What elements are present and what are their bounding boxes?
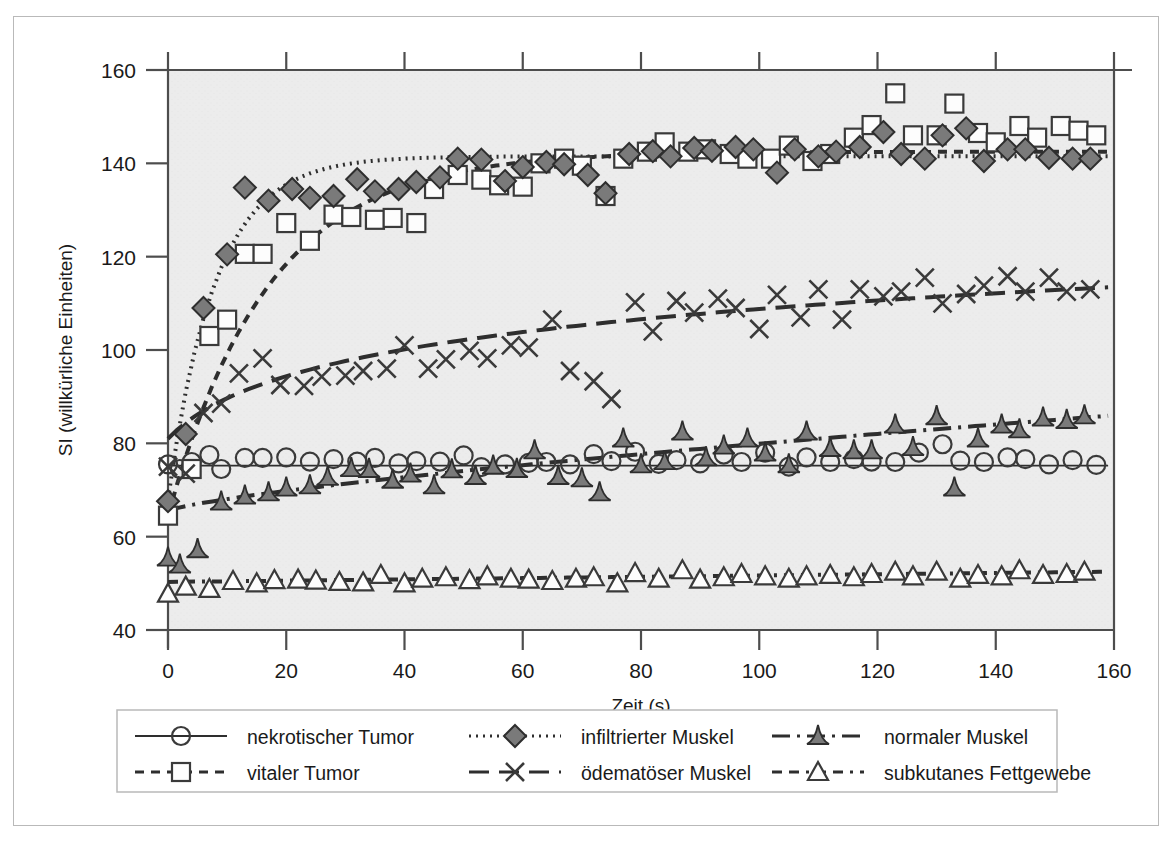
marker-open-square xyxy=(218,311,236,329)
marker-open-square xyxy=(301,232,319,250)
legend-label: subkutanes Fettgewebe xyxy=(884,762,1091,784)
marker-open-square xyxy=(172,763,190,781)
marker-open-square xyxy=(1070,122,1088,140)
marker-open-square xyxy=(886,84,904,102)
marker-open-square xyxy=(1052,117,1070,135)
marker-open-square xyxy=(277,214,295,232)
y-axis-title: SI (willkürliche Einheiten) xyxy=(55,244,76,456)
x-tick-label: 0 xyxy=(162,659,174,682)
x-tick-label: 100 xyxy=(742,659,777,682)
x-tick-label: 80 xyxy=(629,659,652,682)
x-tick-label: 120 xyxy=(860,659,895,682)
y-tick-label: 140 xyxy=(101,152,136,175)
y-tick-label: 160 xyxy=(101,59,136,82)
y-tick-label: 60 xyxy=(113,526,136,549)
legend-label: nekrotischer Tumor xyxy=(247,726,414,748)
marker-open-square xyxy=(384,209,402,227)
x-tick-label: 20 xyxy=(275,659,298,682)
x-tick-label: 60 xyxy=(511,659,534,682)
marker-open-square xyxy=(1010,117,1028,135)
y-tick-label: 40 xyxy=(113,619,136,642)
x-tick-label: 140 xyxy=(978,659,1013,682)
legend-label: normaler Muskel xyxy=(884,726,1028,748)
marker-open-square xyxy=(472,171,490,189)
marker-open-square xyxy=(945,95,963,113)
x-tick-label: 160 xyxy=(1096,659,1131,682)
legend-label: infiltrierter Muskel xyxy=(581,726,734,748)
y-tick-label: 120 xyxy=(101,246,136,269)
legend-entry[interactable]: subkutanes Fettgewebe xyxy=(772,762,1091,784)
marker-open-square xyxy=(342,208,360,226)
chart-canvas: 406080100120140160020406080100120140160Z… xyxy=(0,0,1174,850)
marker-open-square xyxy=(407,214,425,232)
x-tick-label: 40 xyxy=(393,659,416,682)
marker-open-square xyxy=(904,126,922,144)
marker-open-square xyxy=(1087,126,1105,144)
y-tick-label: 80 xyxy=(113,432,136,455)
legend-label: ödematöser Muskel xyxy=(581,762,751,784)
chart-svg: 406080100120140160020406080100120140160Z… xyxy=(0,0,1174,850)
marker-open-square xyxy=(200,327,218,345)
marker-open-square xyxy=(366,211,384,229)
y-tick-label: 100 xyxy=(101,339,136,362)
marker-open-square xyxy=(254,245,272,263)
legend-label: vitaler Tumor xyxy=(247,762,360,784)
